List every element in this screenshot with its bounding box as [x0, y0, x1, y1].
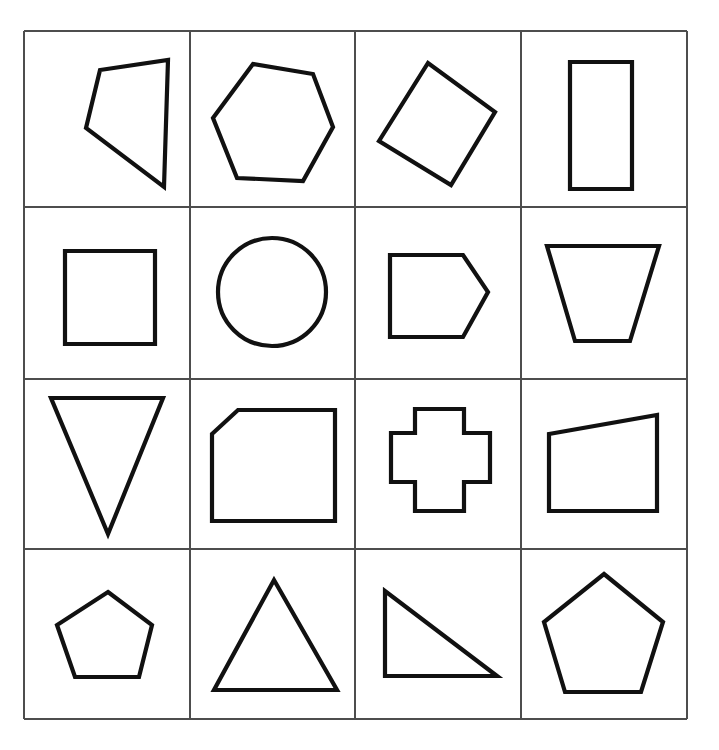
- shape-grid-figure: Rotated rectangleHexagonRotated squareUp…: [0, 0, 719, 750]
- shape-grid-canvas: Rotated rectangleHexagonRotated squareUp…: [0, 0, 719, 750]
- figure-background: [0, 0, 719, 750]
